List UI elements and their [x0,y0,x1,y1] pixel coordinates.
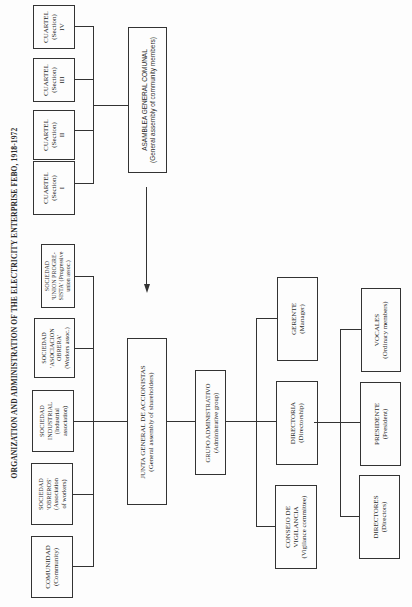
arrow-down-icon [144,284,150,293]
node-directores: DIRECTORES (Directors) [359,475,400,559]
node-comunidad: COMUNIDAD (Community) [31,536,73,598]
node-label: CUARTEL (Section) I [42,172,66,204]
node-presidente: PRESIDENTE (President) [360,382,401,466]
connector [167,421,195,422]
node-label: CUARTEL (Section) II [42,119,66,151]
node-vocales: VOCALES (Ordinary members) [361,288,401,372]
node-label: SOCIEDAD 'ASOCIACION OBRERA' (Workers as… [40,327,70,368]
node-label: CONSEJO DE VIGILANCIA (Vigilance committ… [284,496,308,559]
node-label: SOCIEDAD 'UNION PROGRE- SISTA' (Progress… [44,252,72,301]
connector [73,494,94,495]
node-label: CUARTEL (Section) III [42,64,66,96]
connector [93,105,128,106]
node-label: DIRECTORES (Directors) [372,495,388,538]
connector [340,329,341,517]
connector [340,516,359,517]
node-asamblea-general-comunal: ASAMBLEA GENERAL COMUNAL (General assemb… [128,27,167,173]
connector [226,421,276,422]
connector [340,329,361,330]
node-label: COMUNIDAD (Community) [44,545,60,589]
connector [75,130,94,131]
node-cuartel-i: CUARTEL (Section) I [33,161,75,215]
connector [314,422,360,423]
connector [256,318,277,319]
node-label: GRUPO ADMINISTRATIVO (Administrative gro… [203,383,218,462]
node-directoria: DIRECTORIA (Directorship) [276,381,318,465]
node-sociedad-obreros: SOCIEDAD 'OBREROS' (Association of worke… [31,463,73,525]
connector [75,26,94,27]
node-label: VOCALES (Ordinary members) [373,301,389,358]
node-label: SOCIEDAD INDUSTRIAL (Industrial associat… [38,402,68,440]
connector [256,318,257,527]
node-sociedad-industrial: SOCIEDAD INDUSTRIAL (Industrial associat… [32,390,74,452]
connector [73,566,94,567]
node-label: PRESIDENTE (President) [373,403,389,445]
node-cuartel-iii: CUARTEL (Section) III [33,58,75,102]
arrow-shaft [146,187,147,285]
node-label: CUARTEL (Section) IV [42,11,66,43]
chart-title: ORGANIZATION AND ADMINISTRATION OF THE E… [10,128,19,479]
node-consejo-de-vigilancia: CONSEJO DE VIGILANCIA (Vigilance committ… [275,485,317,569]
node-label: GERENTE (Manager) [290,303,306,335]
node-sociedad-union-progresista: SOCIEDAD 'UNION PROGRE- SISTA' (Progress… [41,244,75,308]
connector [75,348,94,349]
node-cuartel-iv: CUARTEL (Section) IV [33,5,75,49]
node-cuartel-ii: CUARTEL (Section) II [33,110,75,160]
node-label: DIRECTORIA (Directorship) [289,402,305,444]
node-label: SOCIEDAD 'OBREROS' (Association of worke… [37,478,67,510]
connector [75,183,94,184]
connector [256,526,276,527]
node-label: ASAMBLEA GENERAL COMUNAL (General assemb… [140,37,155,163]
node-label: JUNTA GENERAL DE ACCIONISTAS (General as… [139,365,155,479]
connector [75,79,94,80]
node-grupo-administrativo: GRUPO ADMINISTRATIVO (Administrative gro… [195,370,226,475]
connector [93,421,128,422]
node-junta-general-de-accionistas: JUNTA GENERAL DE ACCIONISTAS (General as… [127,338,167,505]
connector [74,421,94,422]
node-gerente: GERENTE (Manager) [277,277,318,361]
org-chart: ORGANIZATION AND ADMINISTRATION OF THE E… [0,0,412,607]
connector [75,276,94,277]
node-sociedad-asociacion-obrera: SOCIEDAD 'ASOCIACION OBRERA' (Workers as… [34,318,75,378]
